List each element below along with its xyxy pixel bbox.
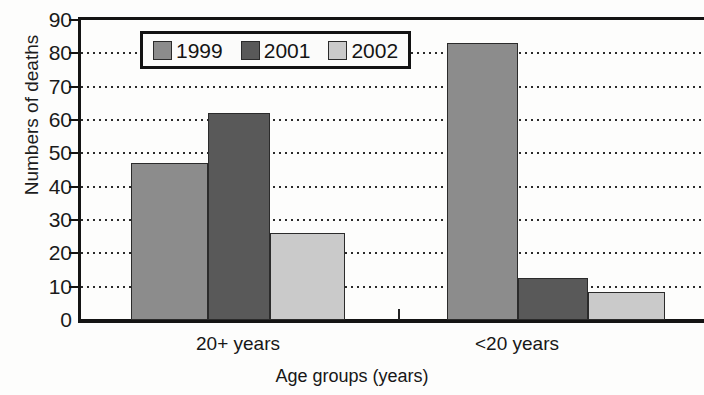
bar-2001-group2: [518, 278, 588, 320]
legend-entry-2002: 2002: [328, 40, 398, 61]
x-category-label: 20+ years: [138, 333, 338, 355]
y-axis-tickmark: [69, 152, 79, 154]
y-tick-label: 10: [32, 276, 72, 297]
y-tick-label: 30: [32, 209, 72, 230]
legend-swatch-icon: [328, 41, 347, 60]
plot-top-border: [78, 17, 704, 20]
y-axis-tickmark: [69, 186, 79, 188]
y-axis-tick-labels: 0102030405060708090: [30, 0, 72, 395]
legend-swatch-icon: [153, 41, 172, 60]
y-tick-label: 20: [32, 242, 72, 263]
bar-1999-group1: [131, 163, 208, 320]
y-axis-tickmark: [69, 286, 79, 288]
gridline: [81, 119, 704, 121]
y-axis-tickmark: [69, 52, 79, 54]
bar-2001-group1: [208, 113, 270, 320]
y-tick-label: 40: [32, 176, 72, 197]
legend-entry-1999: 1999: [153, 40, 223, 61]
category-separator-tick: [398, 309, 400, 320]
legend-entry-2001: 2001: [241, 40, 311, 61]
legend-label: 2002: [351, 40, 398, 61]
y-tick-label: 80: [32, 42, 72, 63]
y-axis-tickmark: [69, 86, 79, 88]
chart-legend: 199920012002: [140, 31, 411, 69]
gridline: [81, 86, 704, 88]
x-category-label: <20 years: [417, 333, 617, 355]
y-tick-label: 0: [32, 309, 72, 330]
y-tick-label: 90: [32, 9, 72, 30]
y-axis-tickmark: [69, 219, 79, 221]
y-tick-label: 60: [32, 109, 72, 130]
y-tick-label: 70: [32, 76, 72, 97]
y-tick-label: 50: [32, 142, 72, 163]
x-axis-title: Age groups (years): [0, 366, 704, 387]
bar-2002-group1: [270, 233, 345, 320]
y-axis-tickmark: [69, 119, 79, 121]
legend-label: 2001: [264, 40, 311, 61]
bar-chart-figure: Numbers of deaths 0102030405060708090 20…: [0, 0, 704, 395]
y-axis-line: [78, 17, 81, 323]
gridline: [81, 152, 704, 154]
y-axis-tickmark: [69, 252, 79, 254]
bar-2002-group2: [588, 292, 665, 320]
legend-swatch-icon: [241, 41, 260, 60]
y-axis-tickmark: [69, 19, 79, 21]
legend-label: 1999: [176, 40, 223, 61]
bar-1999-group2: [447, 43, 518, 320]
